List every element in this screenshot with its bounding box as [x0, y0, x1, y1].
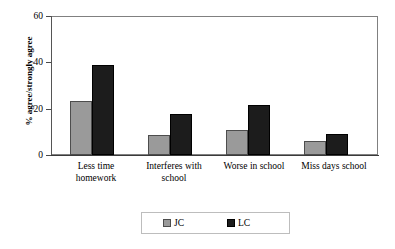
bar-jc-0 — [70, 101, 92, 155]
legend: JC LC — [141, 212, 290, 234]
legend-item-lc: LC — [227, 217, 250, 229]
y-tick-label-0: 0 — [3, 150, 43, 160]
y-axis-title: % agree/strongly agree — [24, 6, 34, 156]
bar-lc-1 — [170, 114, 192, 155]
bar-jc-2 — [226, 130, 248, 155]
legend-swatch-jc-icon — [163, 219, 171, 227]
legend-swatch-lc-icon — [227, 219, 235, 227]
legend-label-lc: LC — [238, 217, 250, 229]
y-tick-label-40: 40 — [3, 57, 43, 67]
bar-lc-2 — [248, 105, 270, 155]
bar-chart: % agree/strongly agree 0 20 40 60 Less t… — [0, 0, 395, 249]
y-tick-label-60: 60 — [3, 11, 43, 21]
legend-item-jc: JC — [163, 217, 184, 229]
x-label-3-line-0: Miss days school — [284, 160, 384, 172]
x-label-3: Miss days school — [284, 160, 384, 172]
bar-lc-3 — [326, 134, 348, 155]
bar-lc-0 — [92, 65, 114, 155]
bar-jc-1 — [148, 135, 170, 155]
x-label-1-line-1: school — [126, 172, 222, 184]
bar-jc-3 — [304, 141, 326, 155]
y-tick-label-20: 20 — [3, 104, 43, 114]
x-axis-line — [51, 155, 379, 156]
legend-label-jc: JC — [174, 217, 184, 229]
y-tick-0 — [46, 155, 51, 156]
bars-layer — [51, 16, 378, 155]
